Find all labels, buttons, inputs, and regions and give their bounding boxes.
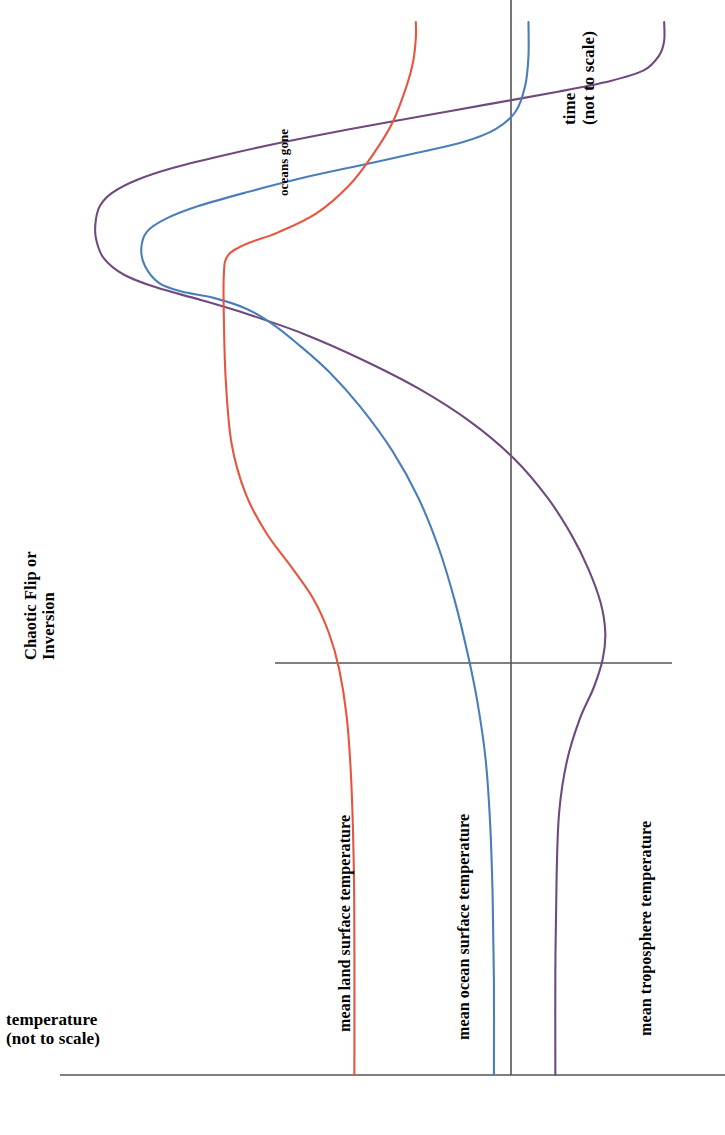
line-chart: [0, 0, 725, 1135]
annotation-oceans-gone: oceans gone: [277, 129, 292, 196]
x-axis-label: temperature (not to scale): [6, 1010, 100, 1048]
x-axis-label-line1: temperature: [6, 1010, 100, 1029]
y-axis-label: time (not to scale): [560, 31, 598, 125]
axis-lines: [60, 0, 725, 1075]
y-axis-label-line1: time: [560, 31, 579, 125]
y-axis-label-line2: (not to scale): [579, 31, 598, 125]
series-label-troposphere: mean troposphere temperature: [637, 821, 655, 1036]
annotation-chaotic-flip: Chaotic Flip or Inversion: [22, 551, 59, 660]
series-label-ocean: mean ocean surface temperature: [455, 814, 473, 1040]
series-label-land: mean land surface temperature: [336, 815, 354, 1032]
curve-mean-land-surface-temperature: [223, 22, 416, 1075]
annotation-chaotic-flip-line2: Inversion: [40, 551, 58, 660]
curve-mean-troposphere-temperature: [95, 22, 664, 1075]
x-axis-label-line2: (not to scale): [6, 1029, 100, 1048]
series-curves: [95, 22, 664, 1075]
annotation-chaotic-flip-line1: Chaotic Flip or: [22, 551, 40, 660]
figure-canvas: temperature (not to scale) time (not to …: [0, 0, 725, 1135]
